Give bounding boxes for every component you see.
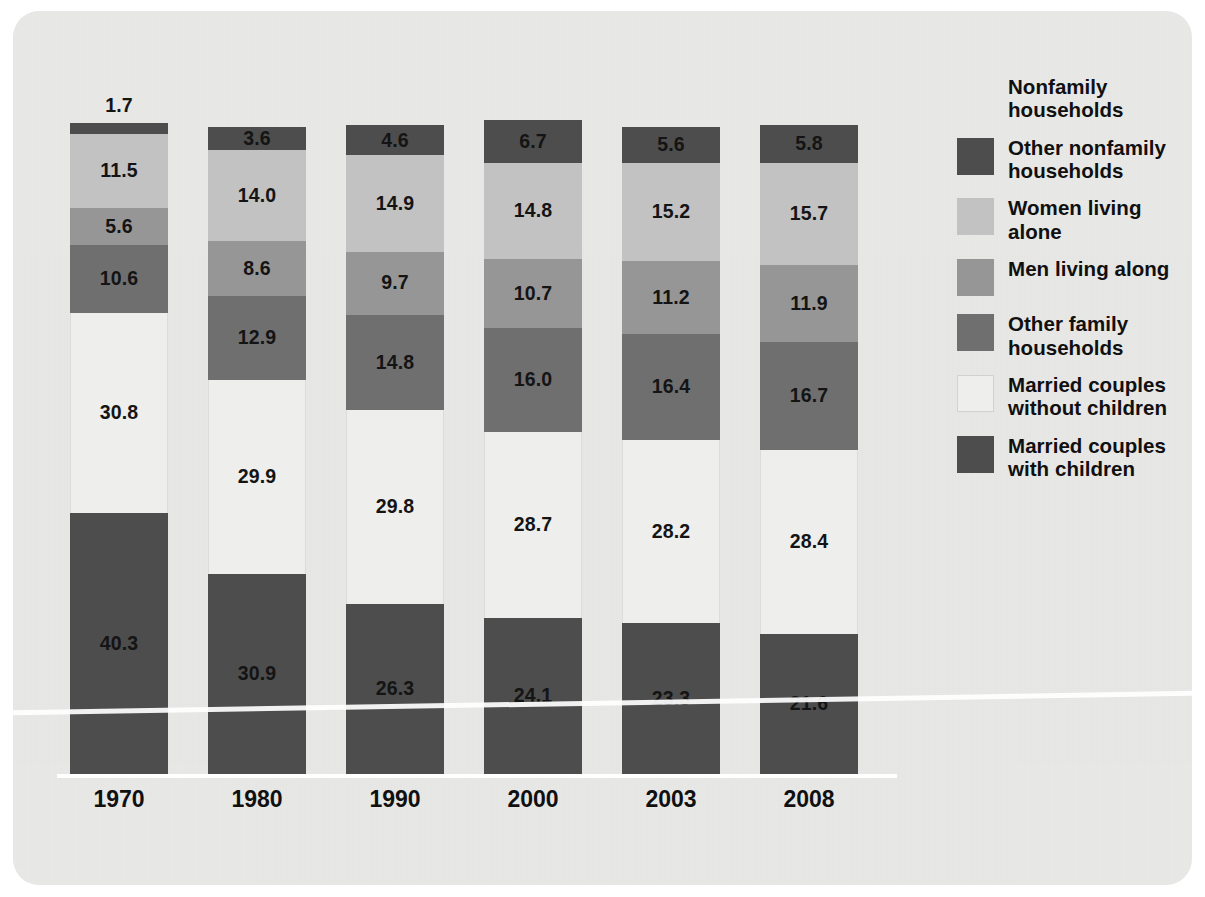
bar-segment-1970-other-nonfamily-households[interactable]: 1.7: [70, 123, 168, 134]
bar-group-2000[interactable]: 6.714.810.716.028.724.1: [484, 120, 582, 774]
segment-value-label: 9.7: [381, 273, 408, 293]
legend-swatch-married-couples-with-children: [957, 436, 994, 473]
legend-swatch-men-living-along: [957, 259, 994, 296]
bar-segment-2003-women-living-alone[interactable]: 15.2: [622, 163, 720, 261]
bar-segment-1980-other-nonfamily-households[interactable]: 3.6: [208, 127, 306, 150]
bar-segment-1990-other-nonfamily-households[interactable]: 4.6: [346, 125, 444, 155]
bar-segment-2003-married-with-children[interactable]: 23.3: [622, 623, 720, 774]
legend-swatch-women-living-alone: [957, 198, 994, 235]
bar-segment-1990-married-with-children[interactable]: 26.3: [346, 604, 444, 774]
legend-swatch-other-nonfamily-households: [957, 138, 994, 175]
segment-value-label: 28.2: [652, 522, 690, 542]
segment-value-label: 23.3: [652, 689, 690, 709]
bar-segment-2003-married-without-children[interactable]: 28.2: [622, 440, 720, 623]
segment-value-label: 10.7: [514, 284, 552, 304]
x-tick-1990: 1990: [346, 786, 444, 813]
bar-group-1990[interactable]: 4.614.99.714.829.826.3: [346, 125, 444, 774]
bar-segment-1970-men-living-along[interactable]: 5.6: [70, 208, 168, 244]
bar-segment-1980-married-without-children[interactable]: 29.9: [208, 380, 306, 574]
bar-group-1980[interactable]: 3.614.08.612.929.930.9: [208, 127, 306, 774]
segment-value-label: 29.9: [238, 467, 276, 487]
segment-value-label: 16.0: [514, 370, 552, 390]
bar-segment-1970-women-living-alone[interactable]: 11.5: [70, 134, 168, 209]
legend-label-other-family-households: Other familyhouseholds: [1008, 311, 1128, 359]
bar-segment-1970-married-without-children[interactable]: 30.8: [70, 313, 168, 513]
bar-group-2008[interactable]: 5.815.711.916.728.421.6: [760, 125, 858, 774]
segment-value-label: 6.7: [519, 132, 546, 152]
legend-label-other-nonfamily-households: Other nonfamilyhouseholds: [1008, 135, 1166, 183]
x-tick-2000: 2000: [484, 786, 582, 813]
bar-segment-2008-married-without-children[interactable]: 28.4: [760, 450, 858, 634]
bar-segment-1970-other-family-households[interactable]: 10.6: [70, 245, 168, 314]
segment-value-label: 11.9: [790, 294, 827, 314]
segment-value-label: 5.8: [795, 134, 822, 154]
bar-segment-2000-married-with-children[interactable]: 24.1: [484, 618, 582, 774]
bar-segment-2008-other-nonfamily-households[interactable]: 5.8: [760, 125, 858, 163]
bar-segment-2003-other-nonfamily-households[interactable]: 5.6: [622, 127, 720, 163]
bar-segment-2000-women-living-alone[interactable]: 14.8: [484, 163, 582, 259]
legend-item-nonfamily-households[interactable]: Nonfamilyhouseholds: [957, 74, 1192, 122]
segment-value-label: 14.9: [376, 194, 414, 214]
legend-item-other-nonfamily-households[interactable]: Other nonfamilyhouseholds: [957, 135, 1192, 183]
legend-swatch-married-couples-without-children: [957, 375, 994, 412]
bar-segment-2008-men-living-along[interactable]: 11.9: [760, 265, 858, 342]
bar-segment-1980-women-living-alone[interactable]: 14.0: [208, 150, 306, 241]
segment-value-label: 4.6: [381, 131, 408, 151]
segment-value-label: 15.7: [790, 204, 828, 224]
bar-segment-2003-other-family-households[interactable]: 16.4: [622, 334, 720, 440]
bar-segment-1990-married-without-children[interactable]: 29.8: [346, 410, 444, 603]
bar-segment-1980-men-living-along[interactable]: 8.6: [208, 241, 306, 297]
legend-label-married-couples-without-children: Married coupleswithout children: [1008, 372, 1167, 420]
bar-segment-1990-other-family-households[interactable]: 14.8: [346, 315, 444, 411]
segment-value-label: 29.8: [376, 497, 414, 517]
bar-segment-1980-other-family-households[interactable]: 12.9: [208, 296, 306, 380]
segment-value-label: 10.6: [100, 269, 138, 289]
segment-value-label: 5.6: [657, 135, 684, 155]
segment-value-label: 28.7: [514, 515, 552, 535]
legend-item-other-family-households[interactable]: Other familyhouseholds: [957, 311, 1192, 359]
legend-label-married-couples-with-children: Married coupleswith children: [1008, 433, 1166, 481]
segment-value-label: 16.4: [652, 377, 690, 397]
bar-segment-1990-men-living-along[interactable]: 9.7: [346, 252, 444, 315]
segment-value-label: 11.2: [652, 288, 689, 308]
bar-segment-2008-women-living-alone[interactable]: 15.7: [760, 163, 858, 265]
x-axis-line: [57, 774, 897, 778]
chart-panel: 1.711.55.610.630.840.33.614.08.612.929.9…: [13, 11, 1192, 885]
bar-segment-2000-married-without-children[interactable]: 28.7: [484, 432, 582, 618]
bar-group-2003[interactable]: 5.615.211.216.428.223.3: [622, 127, 720, 774]
bar-segment-1990-women-living-alone[interactable]: 14.9: [346, 155, 444, 252]
segment-value-label: 21.6: [790, 694, 828, 714]
bar-segment-2000-men-living-along[interactable]: 10.7: [484, 259, 582, 328]
legend-item-married-couples-without-children[interactable]: Married coupleswithout children: [957, 372, 1192, 420]
segment-value-label: 26.3: [376, 679, 414, 699]
segment-value-label: 28.4: [790, 532, 828, 552]
bar-segment-2008-married-with-children[interactable]: 21.6: [760, 634, 858, 774]
legend-swatch-nonfamily-households: [957, 77, 994, 114]
bar-segment-1970-married-with-children[interactable]: 40.3: [70, 513, 168, 774]
segment-value-label: 40.3: [100, 634, 138, 654]
bar-segment-2000-other-nonfamily-households[interactable]: 6.7: [484, 120, 582, 163]
bar-segment-2003-men-living-along[interactable]: 11.2: [622, 261, 720, 334]
segment-value-label: 16.7: [790, 386, 828, 406]
x-tick-2008: 2008: [760, 786, 858, 813]
segment-value-label: 14.0: [238, 186, 276, 206]
plot-area: 1.711.55.610.630.840.33.614.08.612.929.9…: [57, 60, 897, 840]
legend-swatch-other-family-households: [957, 314, 994, 351]
chart-legend: NonfamilyhouseholdsOther nonfamilyhouseh…: [957, 74, 1192, 493]
segment-value-label: 5.6: [105, 217, 132, 237]
segment-value-label: 15.2: [652, 202, 690, 222]
bar-segment-2008-other-family-households[interactable]: 16.7: [760, 342, 858, 450]
segment-value-label: 24.1: [514, 686, 552, 706]
legend-item-married-couples-with-children[interactable]: Married coupleswith children: [957, 433, 1192, 481]
legend-item-women-living-alone[interactable]: Women living alone: [957, 195, 1192, 243]
legend-item-men-living-along[interactable]: Men living along: [957, 256, 1192, 298]
segment-value-label: 30.9: [238, 664, 276, 684]
bar-segment-1980-married-with-children[interactable]: 30.9: [208, 574, 306, 774]
segment-value-label: 8.6: [243, 259, 270, 279]
x-tick-2003: 2003: [622, 786, 720, 813]
bar-group-1970[interactable]: 1.711.55.610.630.840.3: [70, 123, 168, 774]
segment-value-label: 30.8: [100, 403, 138, 423]
legend-label-nonfamily-households: Nonfamilyhouseholds: [1008, 74, 1124, 122]
bar-segment-2000-other-family-households[interactable]: 16.0: [484, 328, 582, 432]
x-tick-1980: 1980: [208, 786, 306, 813]
